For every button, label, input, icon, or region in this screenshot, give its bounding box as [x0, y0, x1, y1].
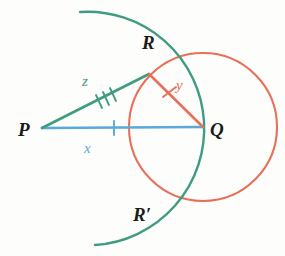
- vertex-label-q: Q: [210, 120, 224, 139]
- segment-label-y: y: [176, 78, 183, 93]
- vertex-label-r: R: [142, 33, 155, 52]
- geometry-diagram: P Q R R′ x y z: [0, 0, 285, 256]
- segment-pq: [42, 127, 203, 128]
- segment-label-z: z: [82, 74, 88, 89]
- vertex-label-r-prime: R′: [133, 205, 151, 224]
- vertex-label-p: P: [18, 120, 30, 139]
- segment-label-x: x: [84, 141, 91, 156]
